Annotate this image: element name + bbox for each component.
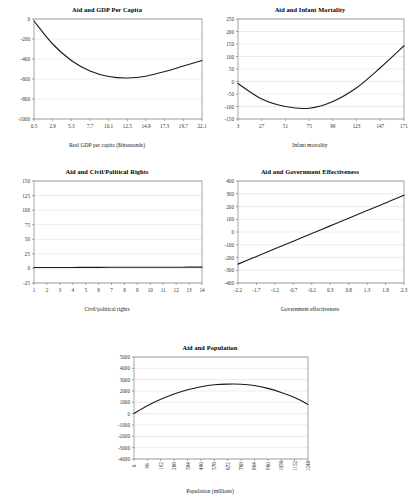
y-tick-label: 3000 xyxy=(104,377,130,383)
chart-panel-aid-government-effectiveness: Aid and Government Effectiveness 4003002… xyxy=(212,168,408,320)
x-tick-label: 11 xyxy=(161,287,166,293)
y-tick-label: 125 xyxy=(8,193,30,199)
x-tick-label: 768 xyxy=(238,462,244,470)
y-tick-label: -200 xyxy=(212,255,234,261)
x-tick-label: 5.3 xyxy=(68,123,74,129)
y-tick-label: 50 xyxy=(8,236,30,242)
x-axis-title: Real GDP per capita ($thousands) xyxy=(8,142,206,148)
y-tick-label: 50 xyxy=(212,66,234,72)
y-tick-label: 100 xyxy=(212,54,234,60)
y-tick-label: 150 xyxy=(8,178,30,184)
x-tick-label: 22.1 xyxy=(197,123,206,129)
y-tick-label: -3000 xyxy=(104,445,130,451)
plot-svg xyxy=(8,13,206,133)
y-tick-label: -1000 xyxy=(104,422,130,428)
x-tick-label: 4 xyxy=(71,287,74,293)
y-tick-label: -25 xyxy=(8,280,30,286)
x-axis-title: Government effectiveness xyxy=(212,306,408,312)
x-tick-label: 171 xyxy=(400,123,408,129)
x-tick-label: 2.3 xyxy=(401,287,407,293)
x-tick-label: 1 xyxy=(33,287,36,293)
x-tick-label: 96 xyxy=(144,463,150,468)
y-tick-label: -300 xyxy=(212,267,234,273)
chart-panel-aid-gdp-per-capita: Aid and GDP Per Capita 0-200-400-600-800… xyxy=(8,6,206,158)
y-tick-label: 250 xyxy=(212,16,234,22)
x-tick-label: 5 xyxy=(84,287,87,293)
x-tick-label: 14 xyxy=(199,287,204,293)
y-tick-label: 300 xyxy=(212,191,234,197)
x-tick-label: -0.2 xyxy=(308,287,316,293)
x-tick-label: -1.7 xyxy=(252,287,260,293)
x-tick-label: 27 xyxy=(259,123,264,129)
x-tick-label: 864 xyxy=(251,462,257,470)
x-tick-label: 99 xyxy=(330,123,335,129)
y-tick-label: 4000 xyxy=(104,365,130,371)
x-tick-label: 1056 xyxy=(278,461,284,471)
y-tick-label: -150 xyxy=(212,116,234,122)
y-tick-label: 75 xyxy=(8,222,30,228)
y-tick-label: 25 xyxy=(8,251,30,257)
plot-svg xyxy=(104,351,316,469)
x-tick-label: -0.7 xyxy=(289,287,297,293)
y-tick-label: -400 xyxy=(212,280,234,286)
plot-svg xyxy=(8,175,206,297)
x-tick-label: 13 xyxy=(186,287,191,293)
x-tick-label: 147 xyxy=(376,123,384,129)
y-tick-label: 100 xyxy=(212,216,234,222)
x-tick-label: -1.2 xyxy=(271,287,279,293)
x-tick-label: 14.9 xyxy=(141,123,150,129)
y-tick-label: -50 xyxy=(212,91,234,97)
y-tick-label: 100 xyxy=(8,207,30,213)
chart-title: Aid and Government Effectiveness xyxy=(212,168,408,175)
x-tick-label: 12 xyxy=(174,287,179,293)
plot-area: 1501251007550250-251234567891011121314 xyxy=(8,175,206,297)
x-tick-label: 3 xyxy=(59,287,62,293)
chart-panel-aid-population: Aid and Population 500040003000200010000… xyxy=(104,344,316,494)
chart-panel-aid-infant-mortality: Aid and Infant Mortality 250200150100500… xyxy=(212,6,408,158)
x-tick-label: 10.1 xyxy=(104,123,113,129)
plot-svg xyxy=(212,13,408,133)
y-tick-label: 5000 xyxy=(104,354,130,360)
x-axis-title: Infant mortality xyxy=(212,142,408,148)
x-tick-label: 672 xyxy=(225,462,231,470)
y-tick-label: -100 xyxy=(212,242,234,248)
y-tick-label: 400 xyxy=(212,178,234,184)
x-tick-label: 960 xyxy=(265,462,271,470)
x-tick-label: 123 xyxy=(353,123,361,129)
x-tick-label: 1152 xyxy=(292,461,298,471)
y-tick-label: -400 xyxy=(8,56,30,62)
y-tick-label: 200 xyxy=(212,204,234,210)
x-axis-title: Civil/political rights xyxy=(8,306,206,312)
x-tick-label: 17.3 xyxy=(160,123,169,129)
x-tick-label: 1.3 xyxy=(364,287,370,293)
x-tick-label: 2 xyxy=(46,287,49,293)
y-tick-label: 1000 xyxy=(104,399,130,405)
y-tick-label: -4000 xyxy=(104,456,130,462)
x-tick-label: 0.5 xyxy=(31,123,37,129)
x-tick-label: 3 xyxy=(237,123,240,129)
y-tick-label: 0 xyxy=(212,79,234,85)
chart-title: Aid and Population xyxy=(104,344,316,351)
y-tick-label: -200 xyxy=(8,36,30,42)
x-tick-label: 0 xyxy=(131,465,137,468)
x-tick-label: 6 xyxy=(97,287,100,293)
x-tick-label: 10 xyxy=(148,287,153,293)
y-tick-label: 0 xyxy=(8,16,30,22)
x-tick-label: 19.7 xyxy=(179,123,188,129)
x-tick-label: 288 xyxy=(171,462,177,470)
x-tick-label: 75 xyxy=(307,123,312,129)
x-tick-label: 9 xyxy=(136,287,139,293)
y-tick-label: -800 xyxy=(8,96,30,102)
x-tick-label: 1.8 xyxy=(382,287,388,293)
x-tick-label: 12.5 xyxy=(123,123,132,129)
x-tick-label: 1248 xyxy=(305,461,311,471)
x-axis-title: Population (millions) xyxy=(104,488,316,494)
plot-area: 0-200-400-600-800-10000.52.95.37.710.112… xyxy=(8,13,206,133)
x-tick-label: -2.2 xyxy=(234,287,242,293)
plot-area: 250200150100500-50-100-15032751759912314… xyxy=(212,13,408,133)
y-tick-label: 2000 xyxy=(104,388,130,394)
x-tick-label: 51 xyxy=(283,123,288,129)
y-tick-label: 0 xyxy=(212,229,234,235)
y-tick-label: 200 xyxy=(212,29,234,35)
plot-area: 500040003000200010000-1000-2000-3000-400… xyxy=(104,351,316,469)
